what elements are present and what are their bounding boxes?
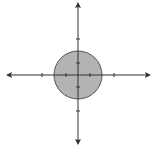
coordinate-plane: [0, 0, 155, 146]
axes: [6, 2, 151, 145]
diagram-canvas: [0, 0, 155, 146]
